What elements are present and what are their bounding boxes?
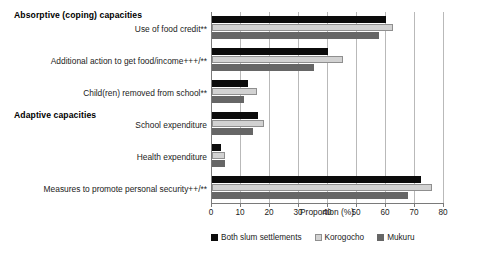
legend-item-both-slum-settlements: Both slum settlements [211, 233, 302, 242]
bar-0 [212, 144, 221, 151]
category-label-health-expenditure: Health expenditure [7, 152, 207, 162]
bar-0 [212, 112, 258, 119]
bar-group [212, 80, 444, 103]
gridline-60 [385, 12, 386, 203]
gridline-70 [414, 12, 415, 203]
bar-group [212, 176, 444, 199]
bar-1 [212, 152, 225, 159]
gridline-50 [356, 12, 357, 203]
bar-2 [212, 32, 379, 39]
bar-1 [212, 88, 257, 95]
section-heading-absorptive: Absorptive (coping) capacities [14, 10, 142, 20]
legend-item-korogocho: Korogocho [315, 233, 365, 242]
bar-group [212, 112, 444, 135]
legend-item-mukuru: Mukuru [377, 233, 414, 242]
bar-1 [212, 120, 264, 127]
category-label-additional-action: Additional action to get food/income+++/… [7, 56, 207, 66]
legend-swatch-icon-korogocho [315, 234, 322, 241]
bar-0 [212, 48, 328, 55]
gridline-40 [327, 12, 328, 203]
category-label-measures-personal-security: Measures to promote personal security++/… [7, 184, 207, 194]
legend-swatch-icon-mukuru [377, 234, 384, 241]
bar-2 [212, 128, 253, 135]
bar-2 [212, 64, 314, 71]
legend-swatch-icon-both-slum-settlements [211, 234, 218, 241]
chart-legend: Both slum settlements Korogocho Mukuru [211, 233, 461, 242]
legend-label-both-slum-settlements: Both slum settlements [221, 233, 302, 242]
bar-0 [212, 80, 248, 87]
legend-label-korogocho: Korogocho [325, 233, 365, 242]
bar-chart: Absorptive (coping) capacities Adaptive … [0, 0, 480, 254]
gridline-30 [298, 12, 299, 203]
section-heading-adaptive: Adaptive capacities [14, 110, 96, 120]
bar-0 [212, 176, 421, 183]
bar-2 [212, 96, 244, 103]
category-label-use-of-food-credit: Use of food credit** [7, 24, 207, 34]
bar-2 [212, 160, 225, 167]
bar-group [212, 16, 444, 39]
bar-2 [212, 192, 408, 199]
bar-group [212, 48, 444, 71]
bar-1 [212, 56, 343, 63]
bar-1 [212, 24, 393, 31]
x-axis-title: Proportion (%) [211, 207, 443, 217]
category-label-children-removed-from-school: Child(ren) removed from school** [7, 88, 207, 98]
gridline-10 [240, 12, 241, 203]
gridline-80 [443, 12, 444, 203]
bar-group [212, 144, 444, 167]
legend-label-mukuru: Mukuru [387, 233, 414, 242]
bar-0 [212, 16, 386, 23]
plot-area: 01020304050607080 [211, 12, 443, 203]
gridline-20 [269, 12, 270, 203]
category-label-school-expenditure: School expenditure [7, 120, 207, 130]
y-axis-line [211, 12, 212, 203]
bar-1 [212, 184, 432, 191]
x-tick-80 [443, 203, 444, 207]
